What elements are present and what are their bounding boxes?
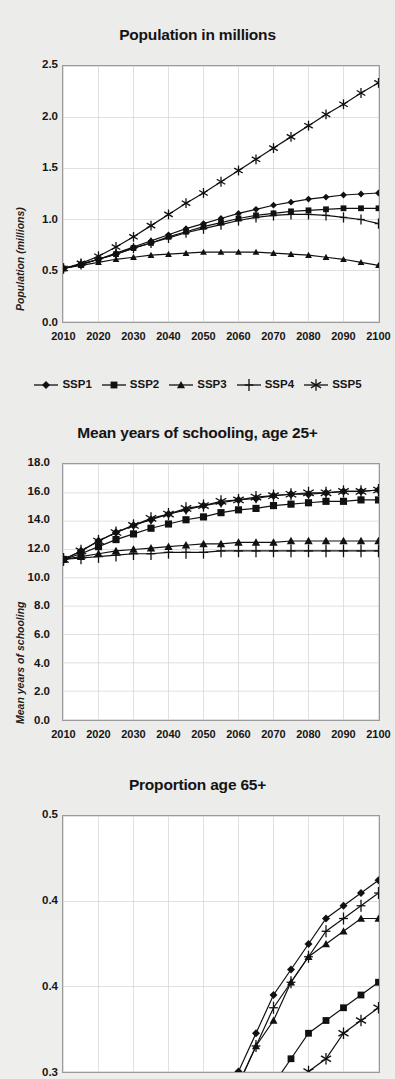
series-SSP4 xyxy=(63,545,379,566)
marker-diamond xyxy=(323,194,330,201)
legend-label: SSP2 xyxy=(130,379,159,391)
y-tick-label: 2.5 xyxy=(42,59,58,71)
series-SSP5 xyxy=(63,1002,379,1072)
marker-square xyxy=(182,516,189,523)
legend-item-ssp3[interactable]: SSP3 xyxy=(168,378,226,392)
y-tick-label: 10.0 xyxy=(28,572,50,584)
marker-plus xyxy=(234,545,243,558)
marker-diamond xyxy=(287,966,295,974)
x-tick-label: 2010 xyxy=(46,729,81,740)
marker-square xyxy=(305,1030,312,1037)
marker-square xyxy=(358,205,364,211)
legend-label: SSP4 xyxy=(265,379,294,391)
marker-diamond xyxy=(340,192,347,199)
legend-item-ssp2[interactable]: SSP2 xyxy=(101,378,159,392)
x-tick-label: 2080 xyxy=(291,331,326,342)
marker-diamond xyxy=(305,940,313,948)
chart-title-population: Population in millions xyxy=(0,26,395,43)
y-axis-ticks-schooling: 0.02.04.06.08.010.012.014.016.018.0 xyxy=(14,463,50,721)
marker-diamond xyxy=(252,1029,260,1037)
marker-asterisk xyxy=(129,232,138,242)
marker-asterisk xyxy=(112,242,121,252)
x-tick-label: 2050 xyxy=(186,331,221,342)
marker-asterisk xyxy=(303,1066,313,1072)
marker-asterisk xyxy=(304,121,313,131)
marker-plus xyxy=(130,243,137,253)
legend-item-ssp5[interactable]: SSP5 xyxy=(303,378,361,392)
x-axis-ticks-population: 2010202020302040205020602070208020902100 xyxy=(46,331,395,342)
marker-plus xyxy=(356,545,365,558)
marker-diamond xyxy=(42,381,50,389)
marker-diamond xyxy=(270,991,278,999)
marker-plus xyxy=(375,219,379,229)
marker-diamond xyxy=(358,191,365,198)
marker-asterisk xyxy=(217,177,226,187)
marker-triangle xyxy=(270,1017,278,1024)
marker-square xyxy=(340,498,347,505)
marker-asterisk xyxy=(147,221,156,231)
marker-asterisk xyxy=(269,143,278,153)
x-tick-label: 2040 xyxy=(151,331,186,342)
marker-triangle xyxy=(322,940,330,947)
plot-wrap-population: Population (millions) 0.00.51.01.52.02.5… xyxy=(0,43,395,343)
marker-plus xyxy=(251,545,260,558)
marker-triangle xyxy=(340,927,348,934)
legend-marker-triangle-icon xyxy=(168,378,194,392)
plot-svg xyxy=(63,816,379,1072)
marker-square xyxy=(235,506,242,513)
plot-area-proportion65 xyxy=(62,815,380,1073)
y-tick-label: 18.0 xyxy=(28,457,50,469)
legend-item-ssp4[interactable]: SSP4 xyxy=(236,378,294,392)
y-tick-label: 0.0 xyxy=(34,715,50,727)
marker-square xyxy=(200,513,207,520)
marker-plus xyxy=(286,545,295,558)
chart-panel-proportion65: Proportion age 65+ 0.30.40.40.5 xyxy=(0,776,395,938)
x-tick-label: 2060 xyxy=(221,729,256,740)
marker-square xyxy=(165,520,172,527)
marker-asterisk xyxy=(164,210,173,220)
marker-diamond xyxy=(340,902,348,910)
marker-asterisk xyxy=(322,110,331,120)
marker-diamond xyxy=(375,190,379,197)
chart-panel-schooling: Mean years of schooling, age 25+ Mean ye… xyxy=(0,424,395,741)
series-SSP3 xyxy=(63,249,379,271)
marker-plus xyxy=(269,545,278,558)
legend-item-ssp1[interactable]: SSP1 xyxy=(33,378,91,392)
marker-square xyxy=(340,1004,347,1011)
y-tick-label: 0.4 xyxy=(42,895,58,907)
x-tick-label: 2070 xyxy=(256,331,291,342)
x-tick-label: 2070 xyxy=(256,729,291,740)
plot-area-population xyxy=(62,65,380,323)
series-line xyxy=(64,893,379,1072)
marker-square xyxy=(147,525,154,532)
series-SSP2 xyxy=(63,979,379,1072)
x-tick-label: 2090 xyxy=(326,729,361,740)
marker-plus xyxy=(339,545,348,558)
marker-plus xyxy=(94,550,103,563)
y-tick-label: 8.0 xyxy=(34,601,50,613)
marker-plus xyxy=(304,545,313,558)
x-tick-label: 2030 xyxy=(116,331,151,342)
marker-square xyxy=(287,501,294,508)
x-tick-label: 2100 xyxy=(361,729,395,740)
legend-marker-plus-icon xyxy=(236,378,262,392)
y-axis-ticks-proportion65: 0.30.40.40.5 xyxy=(22,815,58,1073)
marker-asterisk xyxy=(287,132,296,142)
x-tick-label: 2020 xyxy=(81,729,116,740)
y-tick-label: 14.0 xyxy=(28,515,50,527)
marker-square xyxy=(217,509,224,516)
marker-diamond xyxy=(305,196,312,203)
marker-asterisk xyxy=(338,1027,348,1039)
y-tick-label: 1.0 xyxy=(42,214,58,226)
y-tick-label: 0.5 xyxy=(42,266,58,278)
y-tick-label: 0.0 xyxy=(42,317,58,329)
y-tick-label: 2.0 xyxy=(42,111,58,123)
marker-square xyxy=(270,502,277,509)
marker-diamond xyxy=(253,206,260,213)
marker-square xyxy=(110,382,117,389)
marker-square xyxy=(288,1055,295,1062)
marker-asterisk xyxy=(234,166,243,176)
series-SSP5 xyxy=(63,78,379,274)
y-tick-label: 12.0 xyxy=(28,543,50,555)
plot-wrap-schooling: Mean years of schooling 0.02.04.06.08.01… xyxy=(0,441,395,741)
